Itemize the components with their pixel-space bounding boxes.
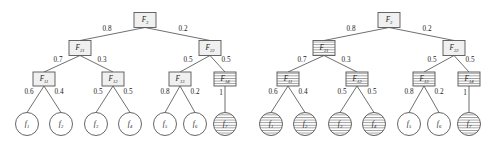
edge-root-to-l2-1: [145, 28, 210, 41]
edge-l2-0-to-l3-1: [80, 56, 113, 73]
leaf-right-tree-f1-subscript: 1: [271, 124, 273, 129]
weight-l2b-right-right-tree: 0.5: [466, 56, 475, 64]
tree-diagram-svg: 0.80.20.70.30.50.50.60.40.50.50.80.21F3F…: [0, 0, 489, 146]
node-right-tree-l3-F12-subscript: 12: [357, 79, 362, 84]
weight-l2b-left-left-tree: 0.5: [184, 56, 193, 64]
edge-root-to-l2-0: [324, 28, 389, 41]
weight-l3a-left-right-tree: 0.6: [269, 88, 278, 96]
weight-l3c-right-right-tree: 0.2: [435, 88, 444, 96]
edge-root-to-l2-0: [80, 28, 145, 41]
node-right-tree-l2-F22-subscript: 22: [454, 48, 459, 53]
weight-l3c-left-right-tree: 0.8: [405, 88, 414, 96]
node-left-tree-l2-F22-subscript: 22: [210, 48, 215, 53]
weight-l2b-right-left-tree: 0.5: [222, 56, 231, 64]
weight-root-left-right-tree: 0.8: [347, 25, 356, 33]
weight-root-right-left-tree: 0.2: [179, 25, 188, 33]
edge-l2-0-to-l3-1: [324, 56, 357, 73]
weight-l2a-right-right-tree: 0.3: [342, 56, 351, 64]
weight-l3d-right-tree: 1: [463, 89, 467, 97]
node-right-tree-l3-F14-subscript: 14: [469, 79, 474, 84]
weight-l3b-right-right-tree: 0.5: [368, 88, 377, 96]
weight-l2a-left-left-tree: 0.7: [54, 56, 63, 64]
weight-l3c-right-left-tree: 0.2: [191, 88, 200, 96]
node-left-tree-l2-F21-subscript: 21: [80, 48, 85, 53]
node-right-tree-l2-F21-subscript: 21: [324, 48, 329, 53]
weight-root-right-right-tree: 0.2: [423, 25, 432, 33]
weight-l3a-right-left-tree: 0.4: [55, 88, 64, 96]
node-left-tree-l3-F13-subscript: 13: [180, 79, 185, 84]
edge-root-to-l2-1: [389, 28, 454, 41]
weight-l3b-right-left-tree: 0.5: [124, 88, 133, 96]
node-left-tree-l3-F11-subscript: 11: [44, 79, 48, 84]
figure-canvas: 0.80.20.70.30.50.50.60.40.50.50.80.21F3F…: [0, 0, 489, 146]
weight-l2b-left-right-tree: 0.5: [428, 56, 437, 64]
node-left-tree-l3-F12-subscript: 12: [113, 79, 118, 84]
tree-render-group: 0.80.20.70.30.50.50.60.40.50.50.80.21F3F…: [16, 13, 481, 136]
weight-l3b-left-right-tree: 0.5: [338, 88, 347, 96]
weight-l2a-right-left-tree: 0.3: [98, 56, 107, 64]
node-left-tree-l3-F14-subscript: 14: [225, 79, 230, 84]
weight-l3a-left-left-tree: 0.6: [25, 88, 34, 96]
weight-root-left-left-tree: 0.8: [103, 25, 112, 33]
weight-l3a-right-right-tree: 0.4: [299, 88, 308, 96]
leaf-left-tree-f1-subscript: 1: [27, 124, 29, 129]
node-right-tree-l3-F13-subscript: 13: [424, 79, 429, 84]
weight-l2a-left-right-tree: 0.7: [298, 56, 307, 64]
weight-l3b-left-left-tree: 0.5: [94, 88, 103, 96]
node-right-tree-l3-F11-subscript: 11: [288, 79, 292, 84]
weight-l3c-left-left-tree: 0.8: [161, 88, 170, 96]
weight-l3d-left-tree: 1: [219, 89, 223, 97]
